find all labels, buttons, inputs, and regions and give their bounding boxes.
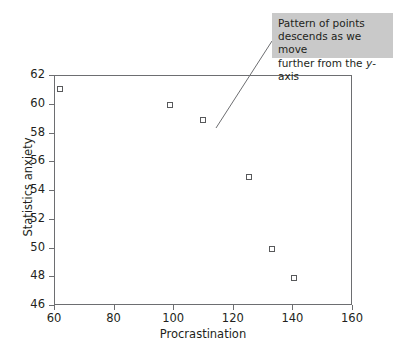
scatter-plot-figure: 6080100120140160 464850525456586062 Proc… — [0, 0, 393, 346]
annotation-line-3-prefix: further from the — [278, 57, 366, 69]
x-tick-label: 100 — [153, 311, 193, 325]
y-tick-mark — [49, 190, 54, 191]
y-tick-mark — [49, 305, 54, 306]
annotation-line-2: descends as we move — [278, 30, 361, 55]
x-tick-mark — [114, 305, 115, 310]
y-tick-mark — [49, 104, 54, 105]
x-tick-label: 140 — [272, 311, 312, 325]
y-tick-label: 46 — [17, 297, 45, 311]
y-tick-mark — [49, 75, 54, 76]
y-tick-mark — [49, 219, 54, 220]
y-tick-mark — [49, 248, 54, 249]
annotation-callout: Pattern of points descends as we move fu… — [272, 13, 393, 58]
x-tick-label: 160 — [332, 311, 372, 325]
x-tick-mark — [54, 305, 55, 310]
y-axis-title: Statistics anxiety — [21, 117, 35, 257]
y-tick-mark — [49, 133, 54, 134]
x-tick-mark — [173, 305, 174, 310]
x-tick-mark — [352, 305, 353, 310]
x-axis-title: Procrastination — [54, 327, 352, 341]
plot-area — [54, 75, 352, 305]
data-point — [246, 174, 252, 180]
data-point — [200, 117, 206, 123]
y-tick-mark — [49, 276, 54, 277]
data-point — [269, 246, 275, 252]
y-tick-label: 60 — [17, 96, 45, 110]
y-tick-label: 48 — [17, 268, 45, 282]
x-tick-mark — [233, 305, 234, 310]
data-point — [167, 102, 173, 108]
data-point — [57, 86, 63, 92]
data-point — [291, 275, 297, 281]
x-tick-mark — [292, 305, 293, 310]
y-tick-mark — [49, 161, 54, 162]
y-tick-label: 62 — [17, 67, 45, 81]
x-tick-label: 120 — [213, 311, 253, 325]
x-tick-label: 80 — [94, 311, 134, 325]
x-tick-label: 60 — [34, 311, 74, 325]
annotation-line-1: Pattern of points — [278, 17, 365, 29]
